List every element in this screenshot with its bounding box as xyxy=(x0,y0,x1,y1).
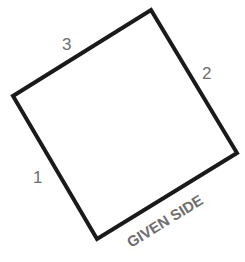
side-label-3: 3 xyxy=(62,35,71,54)
square-diagram: 3 2 1 GIVEN SIDE xyxy=(0,0,245,262)
side-label-1: 1 xyxy=(33,168,42,187)
given-side-label: GIVEN SIDE xyxy=(124,191,206,250)
side-label-2: 2 xyxy=(202,64,211,83)
